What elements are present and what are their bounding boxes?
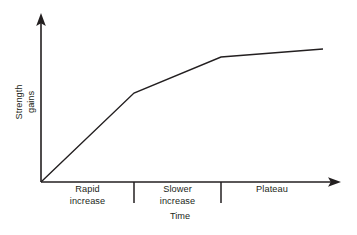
- strength-gains-curve: [41, 49, 323, 182]
- x-axis-title: Time: [120, 211, 240, 223]
- chart-figure: Rapid increase Slower increase Plateau T…: [0, 0, 357, 235]
- phase-label-plateau: Plateau: [221, 184, 323, 196]
- phase-label-slower-increase: Slower increase: [134, 184, 221, 207]
- y-axis-title: Strength gains: [13, 57, 39, 147]
- phase-label-rapid-increase: Rapid increase: [41, 184, 134, 207]
